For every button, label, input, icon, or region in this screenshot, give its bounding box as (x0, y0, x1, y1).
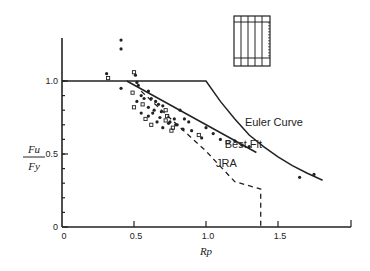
x-axis-label: Rp (199, 245, 213, 257)
data-point (219, 138, 222, 141)
y-tick-label: 0.5 (45, 149, 58, 159)
data-point (144, 117, 147, 120)
data-point (140, 94, 143, 97)
data-point (200, 136, 203, 139)
data-point (204, 126, 207, 129)
data-point (119, 39, 122, 42)
data-point (183, 117, 186, 120)
data-point (158, 116, 161, 119)
data-point (212, 132, 215, 135)
annotations: Euler CurveBest FitJRA (216, 116, 303, 169)
data-point (173, 117, 176, 120)
data-point (132, 71, 135, 74)
data-point (142, 97, 145, 100)
chart: 00.51.000.51.01.5RpFuFy Euler CurveBest … (0, 0, 370, 271)
annotation-jra: JRA (216, 157, 237, 169)
data-point (131, 91, 134, 94)
data-point (134, 74, 137, 77)
data-point (140, 112, 143, 115)
data-point (155, 120, 158, 123)
data-point (105, 72, 108, 75)
data-point (197, 133, 200, 136)
data-point (161, 104, 164, 107)
data-point (164, 109, 167, 112)
data-point (160, 110, 163, 113)
data-point (153, 109, 156, 112)
data-point (147, 106, 150, 109)
data-point (119, 87, 122, 90)
x-tick-label: 0.5 (130, 231, 143, 241)
data-point (154, 100, 157, 103)
series-jra (141, 91, 261, 227)
series-group (62, 81, 323, 227)
data-point (178, 109, 181, 112)
data-point (137, 84, 140, 87)
x-tick-label: 1.0 (202, 231, 215, 241)
data-point (161, 126, 164, 129)
data-point (106, 76, 109, 79)
data-point (151, 112, 154, 115)
data-point (164, 119, 167, 122)
y-axis-label-denominator: Fy (27, 160, 40, 172)
data-point (190, 129, 193, 132)
data-point (135, 81, 138, 84)
y-tick-label: 0 (53, 222, 58, 232)
axes: 00.51.000.51.01.5RpFuFy (23, 38, 351, 257)
data-point (181, 128, 184, 131)
data-point (119, 47, 122, 50)
data-point (147, 90, 150, 93)
x-tick-label: 1.5 (274, 231, 287, 241)
data-point (132, 106, 135, 109)
annotation-euler-curve: Euler Curve (245, 116, 303, 128)
data-point (298, 176, 301, 179)
y-axis-label-numerator: Fu (27, 143, 41, 155)
data-point (312, 173, 315, 176)
x-tick-label: 0 (61, 231, 66, 241)
data-point (135, 100, 138, 103)
data-point (141, 103, 144, 106)
data-point (150, 123, 153, 126)
data-point (187, 120, 190, 123)
data-point (147, 114, 150, 117)
data-point (157, 103, 160, 106)
data-point (174, 123, 177, 126)
panel-diagram-icon (234, 16, 270, 66)
y-tick-label: 1.0 (45, 76, 58, 86)
annotation-best-fit: Best Fit (225, 138, 262, 150)
data-points (105, 39, 316, 179)
data-point (150, 97, 153, 100)
